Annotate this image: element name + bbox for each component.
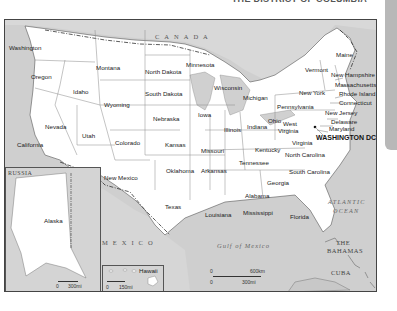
label-alabama: Alabama <box>245 193 269 199</box>
main-scale-bar <box>213 276 261 277</box>
label-washington: Washington <box>9 45 41 51</box>
label-florida: Florida <box>290 214 309 220</box>
label-bahamas-1: THE <box>336 240 350 247</box>
label-new-jersey: New Jersey <box>325 110 357 116</box>
label-missouri: Missouri <box>201 148 224 154</box>
label-kansas: Kansas <box>165 142 186 148</box>
label-south-carolina: South Carolina <box>289 169 330 175</box>
alaska-scale-start: 0 <box>56 283 59 289</box>
label-utah: Utah <box>82 133 95 139</box>
label-canada: CANADA <box>155 34 213 41</box>
label-new-york: New York <box>299 90 325 96</box>
hawaii-scale-bar <box>107 281 125 282</box>
hawaii-inset: Hawaii 0 150mi <box>102 265 164 292</box>
label-massachusetts: Massachusetts <box>335 82 376 88</box>
label-maryland: Maryland <box>329 126 354 132</box>
label-kentucky: Kentucky <box>255 147 280 153</box>
label-wyoming: Wyoming <box>104 102 130 108</box>
hawaii-scale-end: 150mi <box>119 284 133 290</box>
label-vermont: Vermont <box>305 67 328 73</box>
label-texas: Texas <box>165 204 181 210</box>
label-atlantic-ocean-2: OCEAN <box>333 208 359 214</box>
label-mississippi: Mississippi <box>243 210 273 216</box>
label-new-mexico: New Mexico <box>104 175 138 181</box>
label-west-virginia-2: Virginia <box>278 128 299 134</box>
label-iowa: Iowa <box>198 112 211 118</box>
label-south-dakota: South Dakota <box>145 91 183 97</box>
label-alaska: Alaska <box>44 218 63 224</box>
scale-mi-end: 300mi <box>242 279 256 285</box>
label-california: California <box>17 142 43 148</box>
label-minnesota: Minnesota <box>186 62 215 68</box>
label-bahamas-2: BAHAMAS <box>327 248 363 255</box>
scale-km-start: 0 <box>210 268 213 274</box>
alaska-inset: RUSSIA Alaska 0 300mi <box>5 167 101 292</box>
label-idaho: Idaho <box>73 89 88 95</box>
alaska-scale-end: 300mi <box>68 283 82 289</box>
label-mexico: MEXICO <box>102 240 158 247</box>
label-nebraska: Nebraska <box>153 116 179 122</box>
label-tennessee: Tennessee <box>239 160 269 166</box>
label-oregon: Oregon <box>31 74 52 80</box>
label-rhode-island: Rhode Island <box>339 91 375 97</box>
label-cuba: CUBA <box>331 270 351 277</box>
label-virginia: Virginia <box>292 140 313 146</box>
label-russia: RUSSIA <box>8 170 32 176</box>
label-oklahoma: Oklahoma <box>166 168 194 174</box>
label-louisiana: Louisiana <box>205 212 232 218</box>
label-new-hampshire: New Hampshire <box>331 72 375 78</box>
label-washington-dc: WASHINGTON DC <box>316 134 376 141</box>
label-maine: Maine <box>336 52 353 58</box>
label-indiana: Indiana <box>247 124 267 130</box>
label-north-dakota: North Dakota <box>145 69 181 75</box>
label-ohio: Ohio <box>268 118 281 124</box>
us-map: CANADA Washington Oregon Idaho Montana W… <box>4 19 377 292</box>
label-illinois: Illinois <box>224 127 241 133</box>
label-north-carolina: North Carolina <box>285 152 325 158</box>
label-wisconsin: Wisconsin <box>214 85 242 91</box>
page-header-title: THE DISTRICT OF COLUMBIA <box>232 0 367 4</box>
alaska-scale-bar <box>58 281 78 282</box>
scale-km-end: 600km <box>250 268 265 274</box>
side-tab[interactable] <box>385 0 397 150</box>
scale-mi-start: 0 <box>210 279 213 285</box>
label-atlantic-ocean-1: ATLANTIC <box>328 199 366 205</box>
label-colorado: Colorado <box>115 140 140 146</box>
hawaii-scale-start: 0 <box>106 284 109 290</box>
label-nevada: Nevada <box>45 124 66 130</box>
label-georgia: Georgia <box>267 180 289 186</box>
label-montana: Montana <box>96 65 120 71</box>
label-connecticut: Connecticut <box>339 100 372 106</box>
label-arkansas: Arkansas <box>201 168 227 174</box>
label-michigan: Michigan <box>243 95 268 101</box>
label-hawaii: Hawaii <box>139 268 158 274</box>
label-gulf-of-mexico: Gulf of Mexico <box>217 243 270 250</box>
label-pennsylvania: Pennsylvania <box>277 104 314 110</box>
